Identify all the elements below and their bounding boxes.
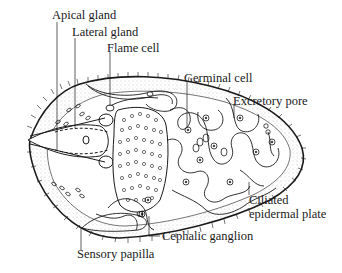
label-excretory-pore: Excretory pore — [233, 94, 308, 108]
label-sensory-papilla: Sensory papilla — [77, 247, 154, 261]
larva-diagram: Apical gland Lateral gland Flame cell Ge… — [0, 0, 342, 273]
label-flame-cell: Flame cell — [107, 41, 159, 55]
label-apical-gland: Apical gland — [52, 8, 116, 22]
germinal-mass — [113, 107, 168, 212]
label-germinal-cell: Germinal cell — [184, 71, 252, 85]
label-ciliated-epidermal-plate-line1: Ciliated — [249, 193, 289, 207]
label-cephalic-ganglion: Cephalic ganglion — [162, 229, 253, 243]
label-lateral-gland: Lateral gland — [72, 25, 138, 39]
label-ciliated-epidermal-plate-line2: epidermal plate — [249, 207, 326, 221]
